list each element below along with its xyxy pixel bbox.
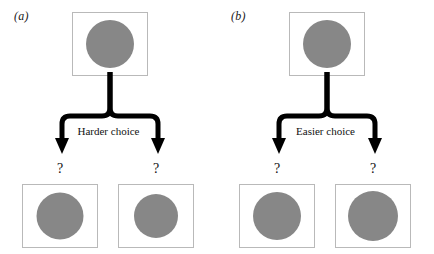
- panel-b-label: (b): [231, 10, 246, 22]
- panel-b-option-right-box[interactable]: [335, 184, 411, 248]
- panel-a-option-left-box[interactable]: [22, 184, 98, 248]
- panel-b-left-question-mark: ?: [267, 162, 287, 176]
- panel-a-reference-disc: [86, 20, 134, 68]
- panel-a-right-question-mark: ?: [146, 162, 166, 176]
- panel-b-option-right-disc[interactable]: [348, 191, 398, 241]
- panel-a-option-right-disc[interactable]: [134, 194, 178, 238]
- panel-b-option-left-disc[interactable]: [253, 192, 301, 240]
- panel-b-choice-label-text: Easier choice: [292, 124, 359, 138]
- panel-b-choice-label: Easier choice: [217, 126, 434, 137]
- panel-b-branch-arrow: [217, 70, 434, 170]
- panel-a-branch-arrow: [0, 70, 217, 170]
- panel-a-left-question-mark: ?: [50, 162, 70, 176]
- panel-a-choice-label-text: Harder choice: [74, 124, 144, 138]
- panel-b: (b) Easier choice ? ?: [217, 0, 434, 254]
- panel-b-option-left-box[interactable]: [239, 184, 315, 248]
- panel-b-reference-box: [289, 12, 365, 76]
- figure-container: (a) Harder choice ? ? (b): [0, 0, 434, 254]
- panel-a-reference-box: [72, 12, 148, 76]
- panel-a: (a) Harder choice ? ?: [0, 0, 217, 254]
- panel-a-option-right-box[interactable]: [118, 184, 194, 248]
- panel-a-label: (a): [14, 10, 29, 22]
- panel-b-reference-disc: [303, 20, 351, 68]
- panel-a-option-left-disc[interactable]: [37, 193, 84, 240]
- panel-a-choice-label: Harder choice: [0, 126, 217, 137]
- panel-b-right-question-mark: ?: [363, 162, 383, 176]
